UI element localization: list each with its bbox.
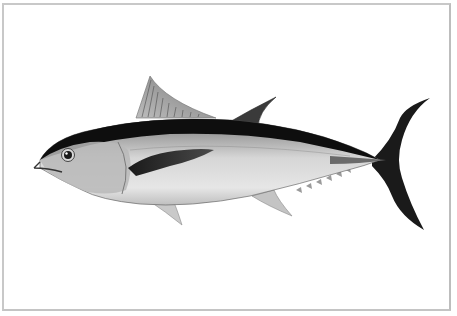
first-dorsal-fin	[136, 76, 216, 118]
fish-eye	[62, 149, 75, 162]
tuna-illustration	[0, 0, 457, 316]
caudal-fin	[372, 98, 430, 230]
